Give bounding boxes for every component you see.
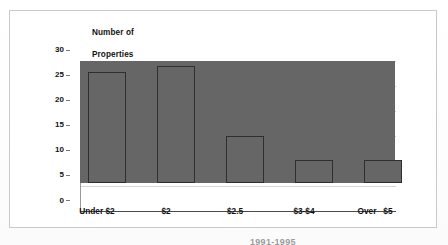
y-axis-label-0: 0 <box>36 197 64 205</box>
y-tick-mark-20 <box>66 100 70 101</box>
bar-3-4[interactable] <box>295 160 333 183</box>
y-axis-label-10: 10 <box>36 146 64 154</box>
y-tick-mark-30 <box>66 50 70 51</box>
x-axis-label-over-5: Over $5 <box>333 206 417 216</box>
y-tick-mark-25 <box>66 75 70 76</box>
y-tick-mark-15 <box>66 125 70 126</box>
y-axis-label-25: 25 <box>36 71 64 79</box>
x-axis-label-2-5: $2.5 <box>195 206 275 216</box>
chart-title: Number of Properties <box>92 16 134 71</box>
chart-frame <box>9 10 437 228</box>
x-axis-label-3-4: $3-$4 <box>264 206 344 216</box>
bar-2-5[interactable] <box>226 136 264 183</box>
y-axis-label-15: 15 <box>36 121 64 129</box>
y-axis-label-30: 30 <box>36 46 64 54</box>
y-tick-mark-10 <box>66 150 70 151</box>
bar-under-2[interactable] <box>88 72 126 183</box>
y-tick-mark-0 <box>66 200 70 201</box>
x-axis-label-under-2: Under $2 <box>57 206 137 216</box>
bar-over-5[interactable] <box>364 160 402 183</box>
bar-2[interactable] <box>157 66 195 183</box>
y-axis-label-5: 5 <box>36 171 64 179</box>
y-axis-label-20: 20 <box>36 96 64 104</box>
bar-series <box>80 61 395 183</box>
gridline-5 <box>81 186 396 187</box>
chart-title-line-1: Number of <box>92 27 134 38</box>
y-tick-mark-5 <box>66 175 70 176</box>
chart-title-line-2: Properties <box>92 49 134 60</box>
x-axis-label-2: $2 <box>126 206 206 216</box>
page-caption-partial: 1991-1995 <box>250 238 440 245</box>
